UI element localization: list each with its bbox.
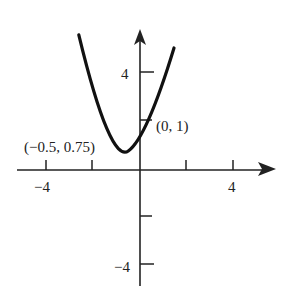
y-tick-label-4: 4 xyxy=(121,66,129,82)
intercept-annotation: (0, 1) xyxy=(156,118,189,135)
x-tick-label-4: 4 xyxy=(228,179,236,195)
y-ticks xyxy=(140,72,154,264)
x-tick-label-neg4: −4 xyxy=(34,179,50,195)
parabola-graph: −4 4 4 −4 (−0.5, 0.75) (0, 1) xyxy=(0,0,281,296)
parabola-curve xyxy=(79,35,174,152)
x-axis-arrow-icon xyxy=(258,162,276,176)
y-tick-label-neg4: −4 xyxy=(114,259,130,275)
vertex-annotation: (−0.5, 0.75) xyxy=(24,139,95,156)
